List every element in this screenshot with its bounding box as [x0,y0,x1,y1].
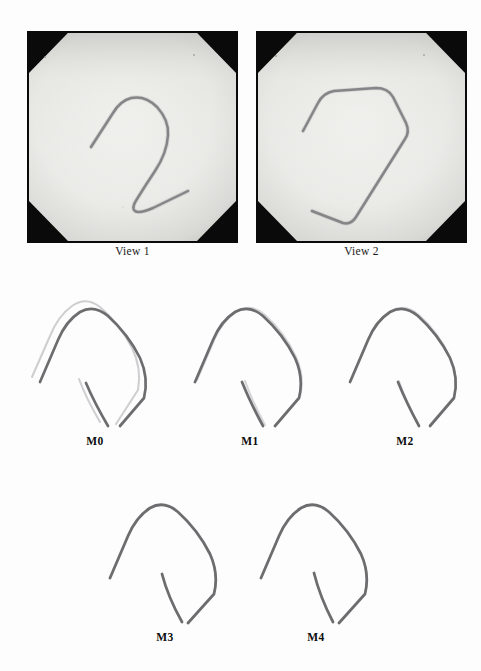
model-caption-m4: M4 [307,631,324,643]
model-cell-m2: M2 [330,274,480,464]
model-caption-m1: M1 [241,435,258,447]
model-cell-m4: M4 [241,470,391,665]
model-cell-m1: M1 [175,274,325,464]
photo-cell-view-2: View 2 [256,31,467,243]
model-caption-m3: M3 [156,631,173,643]
model-caption-m2: M2 [396,435,413,447]
photo-cell-view-1: View 1 [27,31,238,243]
model-row-bottom: M3 M4 [0,470,481,665]
photo-caption-view-2: View 2 [256,245,467,257]
photo-frame-view-2 [256,31,467,243]
photo-caption-view-1: View 1 [27,245,238,257]
row-spacer [0,470,90,665]
figure-root: View 1 [0,0,481,671]
model-row-top: M0 M1 [0,274,481,464]
model-cell-m3: M3 [90,470,240,665]
model-art-m3 [90,470,240,625]
model-caption-m0: M0 [86,435,103,447]
model-art-m1 [175,274,325,429]
model-cell-m0: M0 [20,274,170,464]
photo-row: View 1 [0,31,481,243]
model-art-m4 [241,470,391,625]
model-art-m0 [20,274,170,429]
model-art-m2 [330,274,480,429]
photo-frame-view-1 [27,31,238,243]
row-spacer [0,274,20,464]
